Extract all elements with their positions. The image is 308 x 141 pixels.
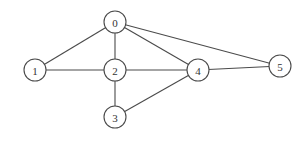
node-2: 2 bbox=[104, 59, 126, 81]
node-3: 3 bbox=[104, 106, 126, 128]
edge-0-4 bbox=[115, 22, 198, 70]
graph-diagram: 012345 bbox=[0, 0, 308, 141]
node-4: 4 bbox=[187, 59, 209, 81]
edge-0-1 bbox=[35, 22, 115, 70]
edges-group bbox=[35, 22, 280, 117]
node-5: 5 bbox=[269, 55, 291, 77]
node-label: 3 bbox=[112, 112, 118, 124]
node-label: 4 bbox=[195, 65, 201, 77]
edge-4-5 bbox=[198, 66, 280, 70]
graph-svg: 012345 bbox=[0, 0, 308, 141]
node-label: 0 bbox=[112, 17, 118, 29]
edge-3-4 bbox=[115, 70, 198, 117]
node-label: 1 bbox=[32, 65, 38, 77]
node-label: 2 bbox=[112, 65, 118, 77]
node-1: 1 bbox=[24, 59, 46, 81]
node-0: 0 bbox=[104, 11, 126, 33]
node-label: 5 bbox=[277, 61, 283, 73]
